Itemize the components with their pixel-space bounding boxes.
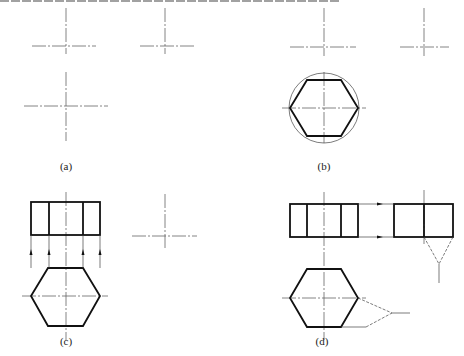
arrow-right-icon bbox=[377, 236, 383, 239]
miter-construction-line bbox=[358, 298, 392, 313]
cropped-caption-text bbox=[0, 0, 340, 2]
panel-label-a: (a) bbox=[60, 160, 72, 172]
arrow-up-icon bbox=[48, 249, 51, 255]
arrow-up-icon bbox=[99, 249, 102, 255]
panel-label-b: (b) bbox=[318, 160, 331, 172]
arrow-right-icon bbox=[377, 203, 383, 206]
panel-label-d: (d) bbox=[316, 335, 329, 347]
miter-construction-line bbox=[439, 237, 453, 264]
miter-construction-line bbox=[424, 237, 439, 264]
prism-view-rectangle bbox=[31, 202, 100, 235]
panel-label-c: (c) bbox=[60, 335, 72, 347]
arrow-up-icon bbox=[82, 249, 85, 255]
arrow-up-icon bbox=[30, 249, 33, 255]
miter-construction-line bbox=[366, 313, 392, 327]
hexagon-top-view bbox=[31, 268, 100, 326]
projection-drawing bbox=[0, 0, 464, 356]
hexagonal-prism-projection-figure: (a) (b) (c) (d) bbox=[0, 0, 464, 356]
